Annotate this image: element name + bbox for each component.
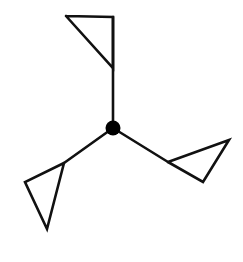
triskelion-figure <box>0 0 243 262</box>
figure-background <box>0 0 243 262</box>
center-node <box>106 121 121 136</box>
figure-canvas <box>0 0 243 262</box>
